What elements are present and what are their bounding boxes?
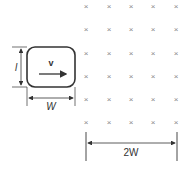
- field-into-page-mark: ×: [174, 72, 179, 81]
- field-into-page-mark: ×: [151, 25, 156, 34]
- field-into-page-mark: ×: [151, 118, 156, 127]
- magnetic-field-region: ××××××××××××××××××××××××××××××: [84, 2, 179, 127]
- field-into-page-mark: ×: [107, 118, 112, 127]
- field-into-page-mark: ×: [84, 72, 89, 81]
- field-into-page-mark: ×: [129, 2, 134, 11]
- velocity-label: v: [48, 58, 53, 68]
- field-into-page-mark: ×: [107, 25, 112, 34]
- field-width-label: 2W: [124, 147, 140, 158]
- field-into-page-mark: ×: [129, 118, 134, 127]
- field-into-page-mark: ×: [84, 118, 89, 127]
- field-into-page-mark: ×: [151, 2, 156, 11]
- field-into-page-mark: ×: [151, 72, 156, 81]
- field-into-page-mark: ×: [107, 2, 112, 11]
- field-into-page-mark: ×: [84, 95, 89, 104]
- diagram-canvas: ×××××××××××××××××××××××××××××× v l W 2W: [0, 0, 191, 170]
- length-label: l: [15, 62, 18, 73]
- field-into-page-mark: ×: [107, 72, 112, 81]
- width-label: W: [46, 101, 57, 112]
- field-into-page-mark: ×: [174, 118, 179, 127]
- field-into-page-mark: ×: [129, 95, 134, 104]
- field-into-page-mark: ×: [174, 49, 179, 58]
- field-into-page-mark: ×: [107, 49, 112, 58]
- field-into-page-mark: ×: [174, 95, 179, 104]
- field-into-page-mark: ×: [84, 2, 89, 11]
- field-into-page-mark: ×: [129, 25, 134, 34]
- field-into-page-mark: ×: [129, 49, 134, 58]
- field-into-page-mark: ×: [107, 95, 112, 104]
- field-into-page-mark: ×: [129, 72, 134, 81]
- field-into-page-mark: ×: [174, 2, 179, 11]
- field-into-page-mark: ×: [84, 49, 89, 58]
- field-into-page-mark: ×: [151, 49, 156, 58]
- field-into-page-mark: ×: [84, 25, 89, 34]
- field-into-page-mark: ×: [151, 95, 156, 104]
- field-into-page-mark: ×: [174, 25, 179, 34]
